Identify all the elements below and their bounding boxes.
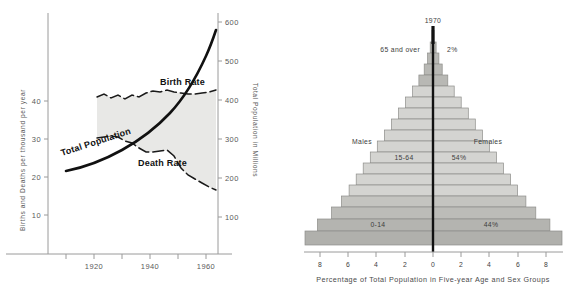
y2-tick-600: 600	[225, 18, 239, 27]
pyramid-x-tick-left-2: 2	[403, 261, 407, 268]
label-males: Males	[352, 138, 372, 145]
pct-15-64: 54%	[452, 154, 467, 161]
birth-rate-label: Birth Rate	[160, 77, 205, 87]
label-15-64: 15-64	[394, 154, 413, 161]
y2-tick-300: 300	[225, 135, 239, 144]
left-y-ticks: 40 30 20 10	[32, 97, 48, 220]
pyramid-x-tick-right-6: 6	[516, 261, 520, 268]
y-tick-20: 20	[32, 173, 41, 182]
pyramid-caption: Percentage of Total Population in Five-y…	[316, 275, 550, 284]
death-rate-label: Death Rate	[138, 158, 187, 168]
y2-axis-title: Total Population in Millions	[251, 83, 259, 178]
pyramid-x-ticks: 8 6 4 2 0 2 4 6 8	[318, 252, 548, 268]
y-tick-10: 10	[32, 211, 41, 220]
y-tick-40: 40	[32, 97, 41, 106]
label-females: Females	[474, 138, 503, 145]
pyramid-x-tick-left-6: 6	[346, 261, 350, 268]
pct-65-and-over: 2%	[447, 46, 458, 53]
y-tick-30: 30	[32, 135, 41, 144]
y2-tick-500: 500	[225, 57, 239, 66]
pyramid-chart-svg: 8 6 4 2 0 2 4 6 8 1970 65 and over 2% Ma…	[292, 0, 585, 303]
label-0-14: 0-14	[370, 221, 385, 228]
y2-tick-200: 200	[225, 174, 239, 183]
y2-tick-100: 100	[225, 213, 239, 222]
right-y-ticks: 600 500 400 300 200 100	[218, 18, 239, 222]
pyramid-x-tick-zero: 0	[431, 261, 435, 268]
y-axis-title: Births and Deaths per thousand per year	[19, 89, 27, 231]
x-tick-1920: 1920	[85, 262, 103, 271]
y2-tick-400: 400	[225, 96, 239, 105]
pyramid-x-tick-right-2: 2	[459, 261, 463, 268]
x-tick-1940: 1940	[141, 262, 159, 271]
pct-0-14: 44%	[484, 221, 499, 228]
x-tick-1960: 1960	[197, 262, 215, 271]
line-chart-svg: 40 30 20 10 600 500 400 300 200 100	[0, 0, 292, 303]
birth-death-population-line-chart: 40 30 20 10 600 500 400 300 200 100	[0, 0, 292, 303]
population-pyramid-chart: 8 6 4 2 0 2 4 6 8 1970 65 and over 2% Ma…	[292, 0, 585, 303]
pyramid-x-tick-left-4: 4	[374, 261, 378, 268]
pyramid-x-tick-right-8: 8	[544, 261, 548, 268]
pyramid-year-label: 1970	[425, 17, 442, 24]
total-population-label: Total Population	[60, 126, 133, 158]
pyramid-x-tick-left-8: 8	[318, 261, 322, 268]
figure-container: 40 30 20 10 600 500 400 300 200 100	[0, 0, 585, 303]
x-ticks: 1920 1940 1960	[66, 254, 215, 271]
pyramid-x-tick-right-4: 4	[487, 261, 491, 268]
label-65-and-over: 65 and over	[380, 46, 420, 53]
